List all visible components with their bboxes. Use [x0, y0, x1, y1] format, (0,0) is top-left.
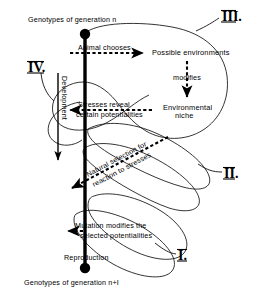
leader-two — [198, 164, 222, 172]
mutation-modifies-label-line1: Mutation modifies the — [75, 221, 146, 230]
genotype-node-top — [80, 29, 90, 39]
stresses-reveal-label-line1: Stresses reveal — [78, 100, 130, 109]
animal-chooses-label: Animal chooses — [78, 43, 131, 52]
genotype-node-bottom — [80, 263, 90, 273]
environmental-niche-label-line2: niche — [175, 111, 193, 120]
leader-four — [41, 73, 54, 101]
figure-canvas: Development Animal chooses Possible envi… — [0, 0, 262, 299]
evolution-feedback-diagram: Development Animal chooses Possible envi… — [0, 0, 262, 299]
leader-three — [196, 18, 219, 31]
loop-three-curve — [52, 23, 227, 138]
possible-environments-label: Possible environments — [152, 48, 230, 57]
development-label: Development — [60, 76, 69, 120]
reproduction-label: Reproduction — [64, 253, 109, 262]
leader-one — [155, 243, 176, 254]
modifies-label: modifies — [173, 73, 201, 82]
stresses-reveal-label-line2: certain potentialities — [76, 110, 143, 119]
genotypes-top-label: Genotypes of generation n — [28, 15, 116, 24]
genotypes-bottom-label: Genotypes of generation n+I — [24, 278, 119, 287]
mutation-modifies-label-line2: selected potentialities — [80, 231, 152, 240]
